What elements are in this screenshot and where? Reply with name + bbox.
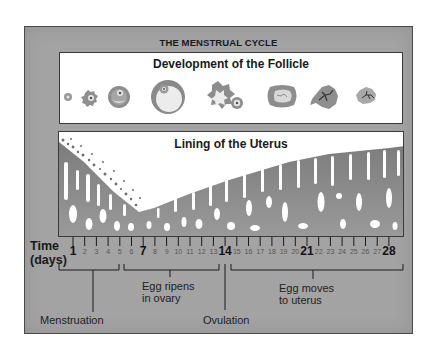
day-label: 1	[70, 244, 77, 258]
day-label: 25	[350, 248, 358, 255]
uterus-panel-title: Lining of the Uterus	[59, 137, 403, 151]
day-label: 20	[291, 248, 299, 255]
day-label: 15	[233, 248, 241, 255]
day-label: 9	[165, 248, 169, 255]
time-axis-label: Time (days)	[30, 239, 67, 267]
day-label: 17	[256, 248, 264, 255]
day-label: 21	[300, 244, 313, 258]
phase-brackets	[59, 264, 403, 312]
day-label: 14	[218, 244, 231, 258]
day-label: 24	[338, 248, 346, 255]
day-label: 13	[209, 248, 217, 255]
day-label: 19	[280, 248, 288, 255]
phase-label-menstruation: Menstruation	[40, 314, 104, 326]
phase-label-egg-moves: Egg moves to uterus	[279, 282, 334, 306]
day-label: 5	[118, 248, 122, 255]
day-label: 28	[382, 244, 395, 258]
day-label: 7	[140, 244, 147, 258]
day-label: 23	[326, 248, 334, 255]
diagram-frame: THE MENSTRUAL CYCLE Development of the F…	[24, 26, 413, 334]
day-label: 3	[94, 248, 98, 255]
day-label: 2	[83, 248, 87, 255]
day-label: 10	[174, 248, 182, 255]
day-label: 6	[130, 248, 134, 255]
day-label: 12	[198, 248, 206, 255]
day-label: 11	[186, 248, 193, 255]
day-label: 16	[245, 248, 253, 255]
day-label: 18	[268, 248, 276, 255]
day-label: 26	[362, 248, 370, 255]
day-label: 22	[315, 248, 323, 255]
bracket-menstruation	[59, 264, 119, 270]
day-label: 8	[153, 248, 157, 255]
day-label: 27	[373, 248, 381, 255]
phase-label-ovulation: Ovulation	[203, 314, 249, 326]
day-label: 4	[106, 248, 110, 255]
bracket-egg-ripens	[124, 264, 219, 270]
bracket-egg-moves	[231, 264, 403, 270]
phase-label-egg-ripens: Egg ripens in ovary	[142, 280, 195, 304]
timeline-axis	[25, 27, 414, 335]
